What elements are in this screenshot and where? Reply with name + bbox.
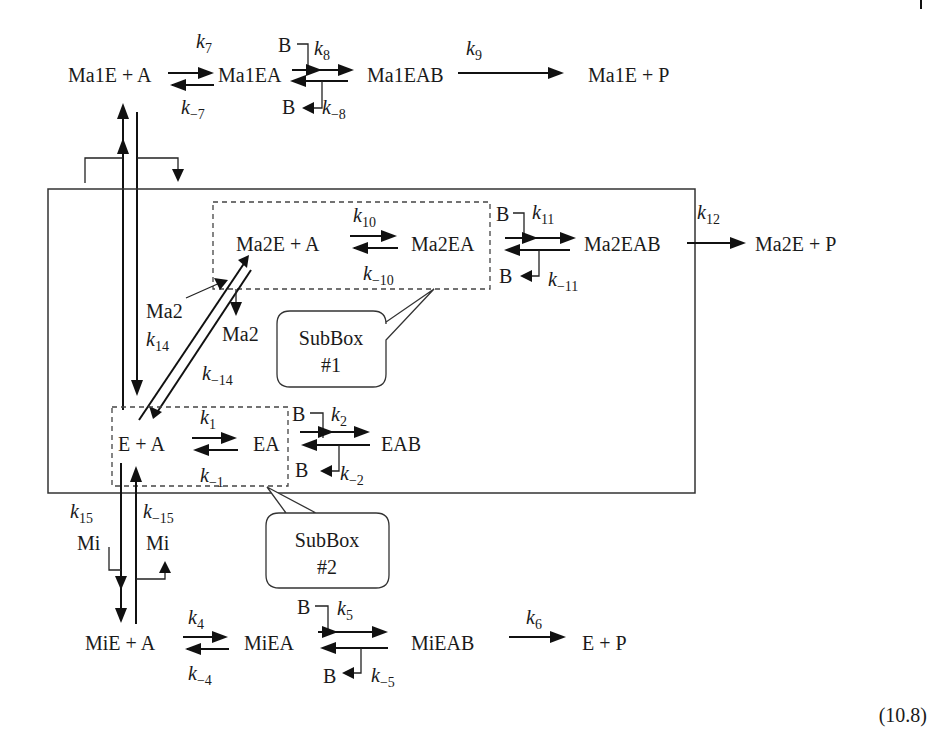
species-mi-out: Mi [146,532,170,554]
arrowhead-up-icon [117,103,129,119]
arrowhead-up-icon [117,138,129,154]
species-b-out: B [323,665,336,687]
rate-k8: k8 [314,37,330,63]
arrowhead-icon [322,626,338,638]
rate-km10: k−10 [363,262,394,288]
rate-k11: k11 [532,201,554,227]
arrowhead-up-icon [159,561,171,573]
species-ma2-out: Ma2 [222,323,259,345]
ma2-in-line [186,282,222,298]
rate-k7: k7 [196,30,212,56]
arrowhead-icon [372,626,388,638]
species-ma2eab: Ma2EAB [584,233,661,255]
arrowhead-icon [301,439,317,451]
e-mi-transition: k15 Mi k−15 Mi [70,463,174,624]
subbox-1-label: SubBox [299,327,363,349]
e-pathway: E + A k1 k−1 EA B k2 B k−2 EAB [118,403,421,490]
arrowhead-icon [290,75,306,87]
rate-km7: k−7 [181,96,205,122]
rate-k15: k15 [70,500,93,526]
arrowhead-down-icon [230,302,242,316]
rate-k10: k10 [353,204,376,230]
species-e-a: E + A [118,433,165,455]
reaction-scheme-diagram: Ma1E + A k7 k−7 Ma1EA B k8 B k−8 Ma1EAB … [0,0,946,756]
subbox-2-callout: SubBox #2 [266,487,389,588]
rate-km4: k−4 [188,662,212,688]
arrowhead-down-icon [172,169,184,182]
species-mie-a: MiE + A [85,632,156,654]
arrowhead-icon [730,237,746,249]
species-b-out: B [282,96,295,118]
arrowhead-icon [320,465,332,477]
arrowhead-down-icon [131,380,143,396]
mi-in-line [109,547,121,570]
arrowhead-icon [193,444,209,456]
species-ma1e-a: Ma1E + A [68,64,152,86]
subbox-2-label: SubBox [295,529,359,551]
arrowhead-down-icon [115,608,127,623]
species-ma1eab: Ma1EAB [367,64,444,86]
arrowhead-icon [550,631,566,643]
arrowhead-icon [381,230,397,242]
rate-km11: k−11 [548,268,578,294]
rate-k14: k14 [146,328,169,354]
arrowhead-icon [338,64,354,76]
rate-k2: k2 [331,403,347,429]
arrowhead-icon [198,67,214,79]
species-ma2e-p: Ma2E + P [755,233,836,255]
rate-k4: k4 [188,606,204,632]
arrowhead-icon [185,643,201,655]
arrowhead-icon [504,244,520,256]
species-mieab: MiEAB [411,632,474,654]
species-b-in: B [278,34,291,56]
species-b-out: B [499,265,512,287]
arrowhead-icon [342,667,354,679]
species-mi-in: Mi [77,532,101,554]
rate-km2: k−2 [340,462,364,488]
species-ea: EA [253,433,280,455]
rate-k9: k9 [466,37,482,63]
species-ma1ea: Ma1EA [218,64,282,86]
arrowhead-down-icon [115,576,127,590]
rate-k1: k1 [200,406,216,432]
species-ma1e-p: Ma1E + P [588,64,669,86]
arrowhead-icon [221,432,237,444]
species-b-in: B [496,203,509,225]
rate-km14: k−14 [202,362,233,388]
e-ma2-transition: Ma2 k14 Ma2 k−14 [139,255,259,420]
arrowhead-icon [522,232,538,244]
arrowhead-icon [548,67,564,79]
species-ma2-in: Ma2 [146,300,183,322]
arrowhead-icon [170,79,186,91]
arrowhead-up-icon [130,466,142,482]
effector-out-line [137,158,178,172]
arrowhead-icon [560,232,576,244]
arrowhead-icon [520,270,532,282]
species-miea: MiEA [244,632,295,654]
subbox-1-callout: SubBox #1 [277,289,434,387]
arrowhead-icon [306,64,322,76]
rate-km5: k−5 [371,664,395,690]
species-e-p: E + P [582,632,627,654]
species-b-in: B [292,403,305,425]
subbox-1-number: #1 [321,354,341,376]
species-b-out: B [295,459,308,481]
rate-km1: k−1 [200,464,224,490]
mi-pathway: MiE + A k4 k−4 MiEA B k5 B k−5 MiEAB k6 … [85,596,627,690]
arrowhead-icon [320,642,336,654]
equation-number: (10.8) [879,704,927,727]
arrowhead-icon [354,426,370,438]
effector-in-line [85,158,123,183]
rate-k5: k5 [337,597,353,623]
rate-k6: k6 [526,606,542,632]
rate-k12: k12 [697,201,720,227]
rate-km15: k−15 [143,500,174,526]
species-ma2ea: Ma2EA [411,233,475,255]
subbox-2-number: #2 [317,556,337,578]
species-ma2e-a: Ma2E + A [236,233,320,255]
ma1-pathway: Ma1E + A k7 k−7 Ma1EA B k8 B k−8 Ma1EAB … [68,30,669,122]
arrowhead-diag-icon [238,255,249,268]
species-eab: EAB [381,433,421,455]
arrowhead-icon [352,242,368,254]
e-ma1-transition [85,103,184,410]
